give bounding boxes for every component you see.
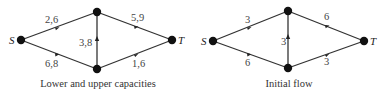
edge-label-a-t: 5,9 (131, 12, 144, 23)
edge-label-b-a: 3 (281, 36, 286, 47)
flow-network-figure: S T 2,6 6,8 3,8 5,9 1,6 Lower and upper … (0, 0, 381, 92)
node-a (284, 7, 292, 15)
node-a (93, 8, 101, 16)
edge-label-s-a: 3 (245, 14, 250, 25)
caption-initial-flow: Initial flow (266, 78, 313, 89)
node-label-t: T (178, 34, 185, 46)
node-label-t: T (370, 35, 377, 47)
arrow-icon (95, 36, 99, 41)
edge-label-b-a: 3,8 (79, 37, 92, 48)
node-b (93, 65, 101, 73)
caption-capacities: Lower and upper capacities (40, 78, 156, 89)
edge-label-s-a: 2,6 (45, 14, 58, 25)
edge-label-s-b: 6 (245, 57, 250, 68)
node-t (360, 37, 368, 45)
node-label-s: S (201, 35, 207, 47)
node-b (284, 64, 292, 72)
edge-s-a (213, 11, 288, 41)
node-t (168, 36, 176, 44)
node-s (209, 37, 217, 45)
edge-label-b-t: 3 (324, 56, 329, 67)
edge-label-b-t: 1,6 (132, 58, 145, 69)
arrow-icon (247, 27, 252, 30)
arrow-icon (55, 27, 60, 30)
node-label-s: S (9, 34, 15, 46)
arrow-icon (286, 34, 290, 39)
initial-flow-diagram: S T 3 6 3 6 3 Initial flow (201, 7, 377, 89)
edge-label-s-b: 6,8 (45, 58, 58, 69)
capacities-diagram: S T 2,6 6,8 3,8 5,9 1,6 Lower and upper … (9, 8, 185, 89)
node-s (17, 36, 25, 44)
edge-label-a-t: 6 (324, 11, 329, 22)
edge-s-a (21, 12, 97, 40)
